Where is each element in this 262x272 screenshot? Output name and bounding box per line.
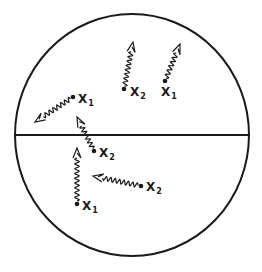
particle-label: X1 xyxy=(78,92,94,108)
particles-group: X1X2X1X2X1X2 xyxy=(35,42,180,215)
particle-dot xyxy=(139,184,144,189)
wavy-emission-line xyxy=(80,126,94,148)
wavy-emission-line xyxy=(103,177,138,187)
particle-label: X1 xyxy=(161,85,177,101)
wavy-emission-line xyxy=(165,53,177,78)
particle-label: X2 xyxy=(130,85,146,101)
particle-label: X2 xyxy=(146,180,162,196)
diagram-canvas: X1X2X1X2X1X2 xyxy=(0,0,262,272)
particle-dot xyxy=(71,95,76,100)
particle-label: X2 xyxy=(99,146,115,162)
wavy-emission-line xyxy=(43,97,70,117)
particle-2: X2 xyxy=(122,42,146,101)
particle-dot xyxy=(163,79,168,84)
wavy-emission-line xyxy=(75,158,79,201)
arrowhead-icon xyxy=(73,148,81,158)
particle-label: X1 xyxy=(82,199,98,215)
particle-5: X1 xyxy=(73,148,98,215)
particle-dot xyxy=(92,149,97,154)
arrowhead-icon xyxy=(127,42,135,53)
particle-dot xyxy=(75,202,80,207)
particle-4: X2 xyxy=(77,117,115,162)
wavy-emission-line xyxy=(123,52,133,86)
particle-3: X1 xyxy=(161,44,180,101)
particle-6: X2 xyxy=(93,174,162,196)
particle-dot xyxy=(122,87,127,92)
particle-1: X1 xyxy=(35,92,94,122)
arrowhead-icon xyxy=(93,174,104,182)
